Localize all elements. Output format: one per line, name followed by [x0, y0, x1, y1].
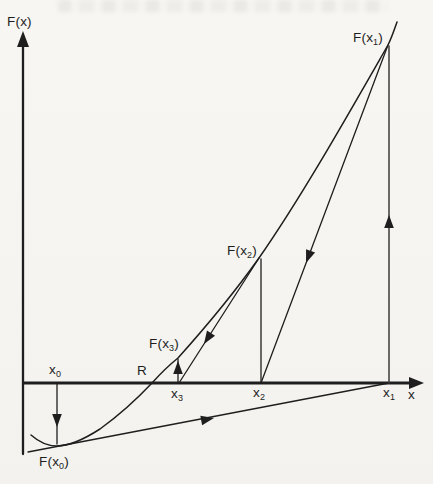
x-axis-label: x [408, 388, 415, 402]
arrow-fx1-downleft-icon [302, 249, 316, 265]
arrow-x0-down-icon [52, 414, 62, 427]
tangent-fx2-to-x3 [179, 258, 259, 383]
y-axis-label: F(x) [7, 15, 32, 29]
arrow-x3-up-icon [173, 361, 183, 374]
newton-iteration-figure: F(x) F(x1) F(x2) F(x3) F(x0) x0 R x3 x2 … [0, 0, 433, 484]
arrow-tangent-right-icon [200, 413, 215, 425]
label-x1: x1 [383, 386, 395, 400]
arrow-x1-up-icon [384, 215, 394, 228]
label-x0: x0 [49, 363, 61, 377]
label-fx3: F(x3) [149, 337, 179, 351]
label-x2: x2 [253, 386, 265, 400]
diagram-canvas [0, 0, 433, 484]
arrow-fx2-downleft-icon [200, 330, 215, 346]
label-fx2: F(x2) [227, 244, 257, 258]
label-fx1: F(x1) [353, 31, 383, 45]
label-root: R [137, 364, 147, 378]
y-axis-arrowhead [17, 31, 29, 47]
tangent-fx1-to-x2 [261, 45, 388, 383]
label-x3: x3 [171, 387, 183, 401]
label-fx0: F(x0) [39, 455, 69, 469]
